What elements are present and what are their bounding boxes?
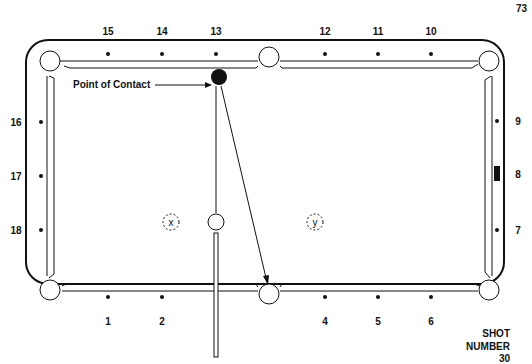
cue-ball	[208, 214, 224, 230]
label-8: 8	[515, 169, 521, 180]
diamond-18	[39, 228, 43, 232]
shot-number: 30	[499, 353, 511, 364]
point-of-contact-label: Point of Contact	[73, 79, 151, 90]
cushion-top-left-inner	[64, 66, 258, 68]
diamond-6	[429, 295, 433, 299]
diamond-11	[376, 52, 380, 56]
diamond-12	[323, 52, 327, 56]
label-17: 17	[10, 171, 22, 182]
object-ball-path	[221, 86, 266, 278]
pocket-bottom-right	[479, 280, 499, 300]
position-y-label: y	[313, 217, 318, 228]
diamond-5	[376, 295, 380, 299]
shot-label-line1: SHOT	[482, 328, 510, 339]
label-7: 7	[515, 225, 521, 236]
label-5: 5	[375, 316, 381, 327]
pocket-top-middle	[259, 47, 279, 67]
cushion-top-right-inner	[280, 64, 478, 68]
object-ball	[211, 69, 227, 85]
diamond-4	[323, 295, 327, 299]
label-12: 12	[319, 26, 331, 37]
diamond-7	[495, 228, 499, 232]
shot-label-line2: NUMBER	[466, 341, 511, 352]
position-x-label: x	[169, 217, 174, 228]
pool-table-diagram: 15 14 13 12 11 10 1 2 4 5 6 16 17 18 9 8…	[0, 0, 532, 364]
diamond-15	[106, 52, 110, 56]
label-11: 11	[373, 26, 384, 37]
label-13: 13	[210, 26, 222, 37]
label-15: 15	[102, 26, 114, 37]
label-18: 18	[10, 225, 22, 236]
cushion-bottom-left-inner	[62, 284, 258, 287]
pocket-top-right	[479, 51, 499, 71]
cushion-right-inner	[485, 76, 491, 278]
label-1: 1	[105, 316, 111, 327]
label-9: 9	[515, 116, 521, 127]
diamond-13	[214, 52, 218, 56]
pocket-bottom-middle	[259, 284, 279, 304]
diamond-labels: 15 14 13 12 11 10 1 2 4 5 6 16 17 18 9 8…	[10, 26, 521, 327]
pocket-bottom-left	[40, 280, 60, 300]
cushion-bottom-right-inner	[280, 284, 480, 287]
diamond-14	[160, 52, 164, 56]
diamond-8-marker	[494, 166, 500, 181]
page-number: 73	[516, 3, 528, 14]
label-14: 14	[156, 26, 168, 37]
table-outer-rail	[26, 40, 504, 284]
diamond-16	[39, 120, 43, 124]
label-10: 10	[425, 26, 437, 37]
label-4: 4	[322, 316, 328, 327]
diamond-2	[160, 295, 164, 299]
diamond-17	[39, 174, 43, 178]
label-2: 2	[159, 316, 165, 327]
diamond-1	[106, 295, 110, 299]
pocket-top-left	[40, 51, 60, 71]
point-of-contact-arrowhead	[205, 82, 212, 88]
cue-stick	[214, 233, 218, 357]
cushion-left-inner	[49, 76, 54, 278]
diamond-10	[429, 52, 433, 56]
label-16: 16	[10, 117, 22, 128]
diamond-9	[495, 119, 499, 123]
cushions	[47, 61, 492, 291]
label-6: 6	[428, 316, 434, 327]
